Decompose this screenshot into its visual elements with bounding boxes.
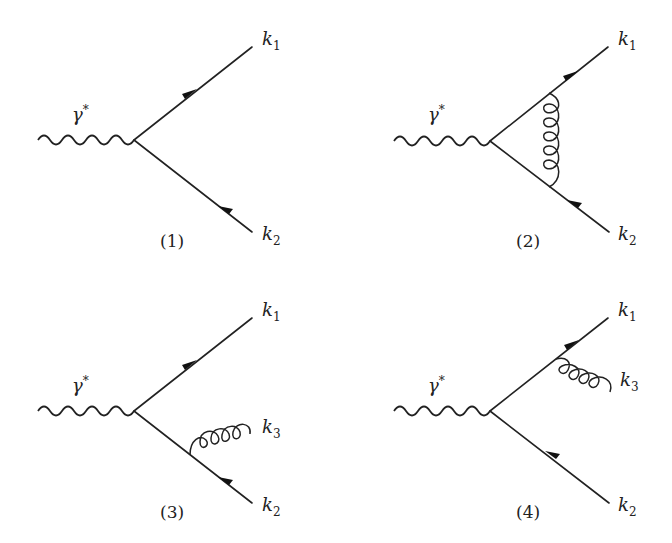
arrow-icon-k1: [182, 89, 197, 99]
photon-line: [38, 407, 134, 416]
panel-caption: (4): [516, 502, 540, 522]
label-k2: k2: [262, 494, 281, 519]
label-k2: k2: [618, 494, 637, 519]
label-k1: k1: [262, 299, 281, 324]
label-k3: k3: [262, 416, 281, 441]
panel-caption: (3): [160, 502, 184, 522]
label-k1: k1: [262, 28, 281, 53]
gluon-emission-k3: [556, 358, 611, 392]
label-k3: k3: [620, 369, 639, 394]
arrow-icon-k1: [182, 360, 197, 370]
gluon-loop: [544, 93, 559, 187]
arrow-icon-k2: [218, 206, 233, 214]
gluon-emission-k3: [190, 424, 250, 455]
antiquark-line-k2: [490, 411, 609, 503]
feynman-diagram-figure: γ* k1 k2 (1) γ* k1 k2 (2): [0, 0, 672, 543]
diagram-panel-2: γ* k1 k2 (2): [394, 28, 637, 251]
photon-label: γ*: [428, 103, 445, 125]
antiquark-line-k2: [134, 140, 252, 232]
photon-line: [394, 407, 490, 416]
panel-caption: (2): [516, 231, 540, 251]
quark-line-k1: [490, 318, 608, 411]
arrow-icon-k2: [567, 200, 582, 208]
arrow-icon-k1: [564, 340, 579, 350]
photon-label: γ*: [428, 374, 445, 396]
photon-line: [394, 137, 490, 146]
photon-label: γ*: [72, 103, 89, 125]
antiquark-line-k2: [134, 411, 252, 503]
panel-caption: (1): [160, 231, 184, 251]
label-k2: k2: [618, 223, 637, 248]
label-k2: k2: [262, 223, 281, 248]
quark-line-k1: [134, 318, 252, 411]
label-k1: k1: [618, 28, 637, 53]
photon-line: [38, 136, 134, 145]
arrow-icon-k1: [563, 71, 578, 81]
photon-label: γ*: [72, 374, 89, 396]
quark-line-k1: [134, 47, 252, 140]
diagram-panel-1: γ* k1 k2 (1): [38, 28, 281, 251]
diagram-panel-4: γ* k1 k3 k2 (4): [394, 299, 639, 522]
arrow-icon-k2: [218, 477, 233, 485]
diagram-panel-3: γ* k1 k3 k2 (3): [38, 299, 281, 522]
label-k1: k1: [618, 299, 637, 324]
